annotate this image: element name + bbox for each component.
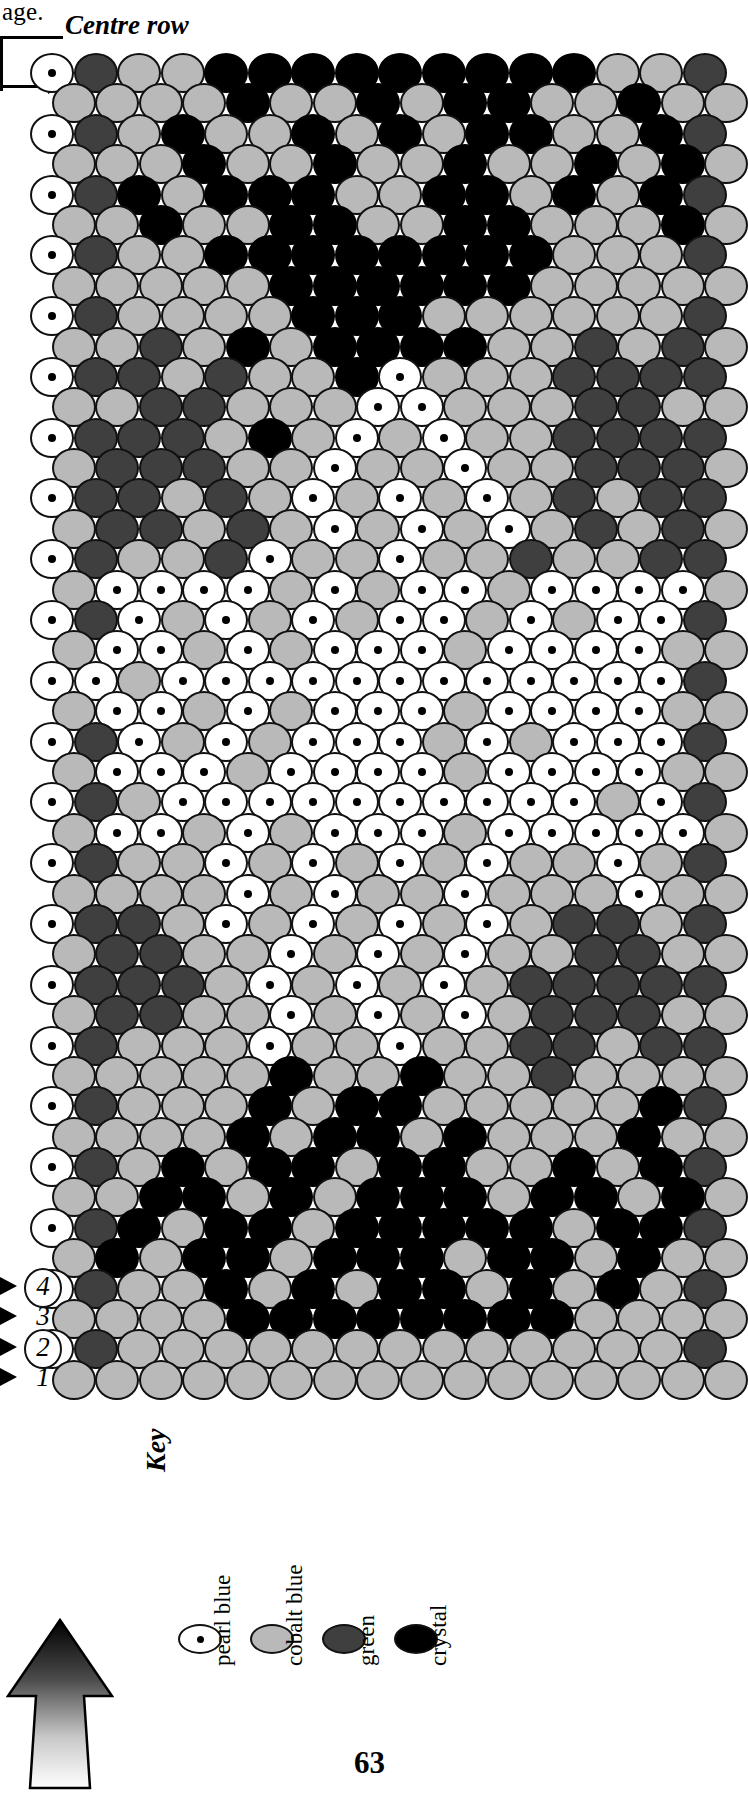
bead-cobalt-blue[interactable] xyxy=(226,1360,270,1400)
triangle-pointer-icon xyxy=(0,1277,17,1295)
bead-cobalt-blue[interactable] xyxy=(95,1360,139,1400)
bead-chart-grid[interactable] xyxy=(30,58,739,1396)
bead-cobalt-blue[interactable] xyxy=(269,1360,313,1400)
bead-cobalt-blue[interactable] xyxy=(487,1360,531,1400)
triangle-pointer-icon xyxy=(0,1307,17,1325)
bead-cobalt-blue[interactable] xyxy=(704,1360,748,1400)
page-top-text: age. xyxy=(2,0,44,26)
bead-cobalt-blue[interactable] xyxy=(313,1360,357,1400)
bead-cobalt-blue[interactable] xyxy=(574,1360,618,1400)
triangle-pointer-icon xyxy=(0,1338,17,1356)
key-title: Key xyxy=(140,1428,172,1472)
bead-cobalt-blue[interactable] xyxy=(356,1360,400,1400)
centre-row-label: Centre row xyxy=(65,10,189,41)
row-number-4: 4 xyxy=(24,1268,62,1308)
key-label-pearl: pearl blue xyxy=(210,1575,236,1666)
bead-cobalt-blue[interactable] xyxy=(617,1360,661,1400)
bead-cobalt-blue[interactable] xyxy=(182,1360,226,1400)
bead-cobalt-blue[interactable] xyxy=(139,1360,183,1400)
bead-cobalt-blue[interactable] xyxy=(443,1360,487,1400)
key-label-green: green xyxy=(354,1615,380,1666)
key-label-cobalt: cobalt blue xyxy=(282,1564,308,1666)
bead-cobalt-blue[interactable] xyxy=(400,1360,444,1400)
bead-cobalt-blue[interactable] xyxy=(661,1360,705,1400)
bead-row xyxy=(30,1365,739,1395)
page-number: 63 xyxy=(0,1745,739,1781)
bead-cobalt-blue[interactable] xyxy=(530,1360,574,1400)
key-label-crystal: crystal xyxy=(426,1605,452,1666)
triangle-pointer-icon xyxy=(0,1368,17,1386)
